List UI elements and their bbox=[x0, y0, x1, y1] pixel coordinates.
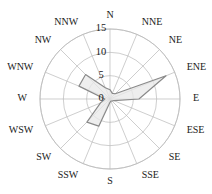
direction-label-NNE: NNE bbox=[142, 16, 163, 27]
direction-label-N: N bbox=[106, 9, 113, 20]
radial-tick-label-10: 10 bbox=[96, 46, 107, 57]
radial-tick-label-15: 15 bbox=[96, 22, 107, 33]
radar-plot-area: 051015 NNNENEENEEESESESSESSSWSWWSWWWNWNW… bbox=[0, 0, 212, 194]
direction-label-SSE: SSE bbox=[142, 169, 159, 180]
grid-spoke-SE bbox=[110, 99, 160, 149]
direction-label-SE: SE bbox=[169, 151, 181, 162]
direction-label-S: S bbox=[107, 175, 113, 186]
direction-label-ENE: ENE bbox=[187, 61, 206, 72]
radial-tick-label-5: 5 bbox=[98, 69, 103, 80]
direction-label-E: E bbox=[193, 92, 199, 103]
direction-label-NE: NE bbox=[169, 34, 182, 45]
direction-label-NW: NW bbox=[35, 34, 52, 45]
direction-label-W: W bbox=[18, 92, 28, 103]
direction-label-ESE: ESE bbox=[187, 124, 205, 135]
direction-label-WSW: WSW bbox=[9, 124, 34, 135]
direction-label-SSW: SSW bbox=[58, 169, 79, 180]
direction-label-NNW: NNW bbox=[54, 16, 78, 27]
wind-rose-chart: 051015 NNNENEENEEESESESSESSSWSWWSWWWNWNW… bbox=[0, 0, 212, 194]
direction-label-SW: SW bbox=[36, 151, 52, 162]
radial-tick-label-0: 0 bbox=[98, 92, 103, 103]
direction-label-WNW: WNW bbox=[7, 61, 34, 72]
